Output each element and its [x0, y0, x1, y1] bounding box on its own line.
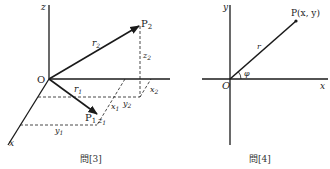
figure-4-caption: 問[4] — [249, 154, 271, 164]
x-axis-label: x — [9, 138, 14, 148]
radius-line — [230, 21, 296, 79]
x-axis-label: x — [320, 81, 325, 91]
diagram-canvas: z x O P2 P1 r2 r1 z2 x2 y2 x1 z1 y1 問[3]… — [0, 0, 330, 169]
figure-4: y x O P(x, y) r φ 問[4] — [202, 2, 328, 164]
point-p-label: P(x, y) — [291, 8, 320, 18]
radius-label: r — [257, 42, 262, 51]
vector-r1 — [49, 79, 97, 114]
x2-label: x2 — [150, 85, 159, 95]
x1-label: x1 — [111, 102, 119, 112]
z-axis-label: z — [40, 2, 46, 12]
angle-label: φ — [244, 69, 250, 78]
point-p1-label: P1 — [85, 112, 96, 125]
x-axis — [8, 79, 49, 145]
vector-r1-label: r1 — [74, 84, 82, 95]
origin-label: O — [37, 74, 45, 85]
figure-3-caption: 問[3] — [80, 154, 102, 164]
vector-r2 — [49, 26, 139, 79]
y2-label: y2 — [122, 99, 132, 109]
point-p2-label: P2 — [141, 18, 152, 31]
z2-label: z2 — [142, 51, 151, 61]
y1-label: y1 — [54, 126, 63, 136]
y-axis-label: y — [222, 2, 229, 12]
figure-3: z x O P2 P1 r2 r1 z2 x2 y2 x1 z1 y1 問[3] — [8, 2, 170, 164]
z1-label: z1 — [97, 116, 106, 126]
origin-label: O — [222, 80, 230, 91]
vector-r2-label: r2 — [92, 38, 100, 49]
angle-arc — [238, 72, 241, 79]
point-p — [294, 19, 297, 22]
